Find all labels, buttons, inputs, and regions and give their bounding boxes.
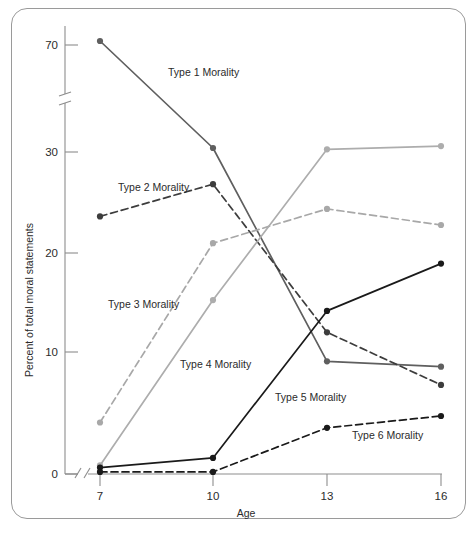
figure-root: 70 30 20 10 0 7 10 13 16 Age Percent of … [0, 0, 475, 535]
x-axis [65, 468, 442, 478]
data-point [97, 419, 103, 425]
series-label-2: Type 2 Morality [118, 181, 190, 193]
data-point [97, 213, 103, 219]
data-point [438, 222, 444, 228]
series-line-1 [100, 41, 441, 367]
x-tick-label-13: 13 [321, 490, 334, 502]
series-label-3: Type 3 Morality [108, 298, 180, 310]
data-point [438, 143, 444, 149]
y-tick-label-70: 70 [45, 39, 58, 51]
data-point [210, 297, 216, 303]
y-tick-label-30: 30 [45, 146, 58, 158]
x-tick-label-10: 10 [207, 490, 220, 502]
data-point [210, 240, 216, 246]
x-tick-label-7: 7 [97, 490, 103, 502]
y-tick-label-0: 0 [52, 468, 58, 480]
x-tick-marks [100, 474, 441, 486]
y-axis [59, 26, 71, 474]
x-axis-title: Age [237, 507, 256, 519]
data-point [97, 38, 103, 44]
data-point [324, 308, 330, 314]
line-chart: 70 30 20 10 0 7 10 13 16 Age Percent of … [0, 0, 475, 535]
series-label-6: Type 6 Morality [352, 429, 424, 441]
series-label-1: Type 1 Morality [168, 66, 240, 78]
y-tick-label-10: 10 [45, 346, 58, 358]
series-6 [97, 413, 444, 475]
x-tick-labels: 7 10 13 16 [97, 490, 448, 502]
data-point [324, 329, 330, 335]
data-point [324, 146, 330, 152]
x-axis-break-icon [75, 468, 90, 478]
data-point [324, 425, 330, 431]
data-point [438, 413, 444, 419]
data-point [97, 469, 103, 475]
series-1 [97, 38, 444, 370]
data-point [438, 261, 444, 267]
series-label-5: Type 5 Morality [275, 391, 347, 403]
x-tick-label-16: 16 [435, 490, 448, 502]
data-point [438, 382, 444, 388]
data-point [210, 145, 216, 151]
data-point [324, 358, 330, 364]
data-point [324, 206, 330, 212]
data-point [438, 364, 444, 370]
y-axis-title: Percent of total moral statements [23, 223, 35, 377]
y-tick-labels: 70 30 20 10 0 [45, 39, 58, 480]
series-label-4: Type 4 Morality [180, 358, 252, 370]
data-point [210, 469, 216, 475]
series-layer [97, 38, 444, 475]
data-point [210, 181, 216, 187]
y-tick-marks [65, 45, 78, 474]
y-axis-break-icon [59, 92, 71, 105]
y-tick-label-20: 20 [45, 247, 58, 259]
data-point [210, 455, 216, 461]
